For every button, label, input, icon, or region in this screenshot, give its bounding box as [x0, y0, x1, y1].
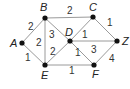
edge-weight-d-z: 3: [91, 44, 97, 55]
edge-weight-a-b: 2: [28, 21, 34, 32]
edge-c-z: [93, 17, 117, 41]
edge-weight-b-c: 2: [67, 5, 73, 16]
edge-weight-f-z: 4: [109, 53, 115, 64]
edge-weight-c-z: 1: [107, 17, 113, 28]
edge-b-c: [45, 17, 93, 18]
node-b: [42, 15, 47, 20]
edge-weight-b-d: 3: [49, 29, 55, 40]
node-label-a: A: [9, 37, 17, 49]
node-c: [90, 14, 95, 19]
node-label-e: E: [41, 69, 49, 81]
node-f: [91, 62, 96, 67]
edge-weight-b-e: 2: [36, 37, 42, 48]
node-label-f: F: [92, 68, 100, 80]
node-d: [67, 38, 72, 43]
node-label-c: C: [89, 1, 97, 13]
node-label-b: B: [40, 1, 47, 13]
node-z: [114, 38, 119, 43]
edge-weight-e-d: 2: [50, 46, 56, 57]
edge-weight-c-d: 1: [82, 29, 88, 40]
edge-weight-d-f: 1: [75, 47, 81, 58]
edge-weight-a-e: 1: [25, 52, 31, 63]
edge-e-d: [45, 41, 70, 65]
weighted-graph: 212322113114ABCDEFZ: [0, 0, 130, 89]
node-a: [19, 40, 24, 45]
edge-weight-e-f: 1: [69, 65, 75, 76]
node-e: [42, 62, 47, 67]
node-label-d: D: [65, 26, 73, 38]
node-label-z: Z: [121, 35, 130, 47]
